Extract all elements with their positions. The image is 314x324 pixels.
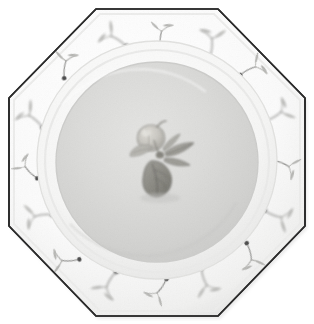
- screenshot-canvas: Octagonal white ceramic plate with paint…: [0, 0, 314, 324]
- plate-photograph: [0, 0, 314, 324]
